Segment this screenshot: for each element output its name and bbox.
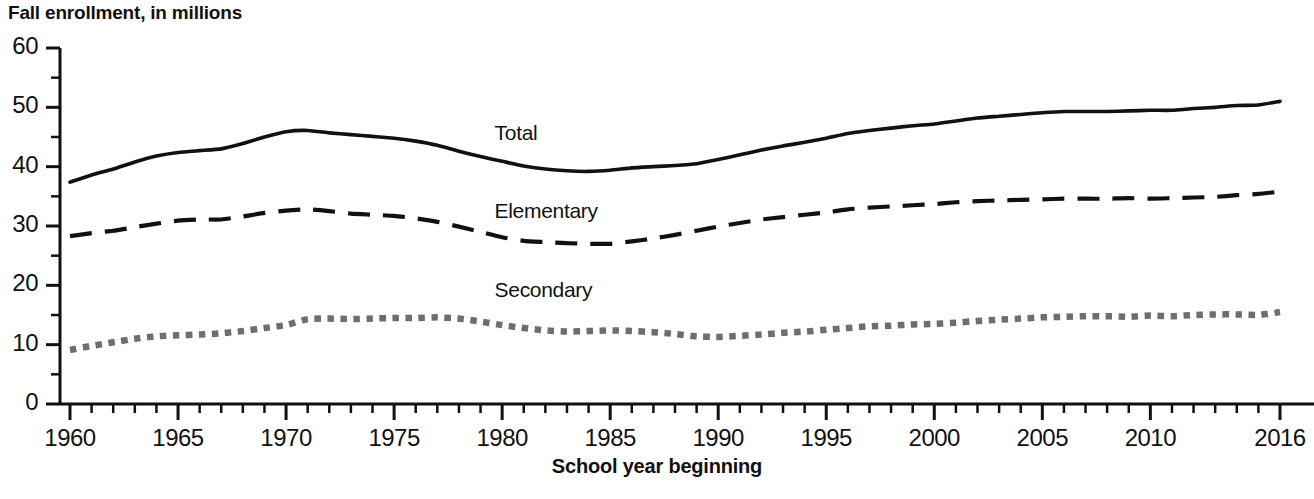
series-label-elementary: Elementary (495, 199, 598, 223)
x-tick-label: 2010 (1105, 424, 1195, 452)
series-label-secondary: Secondary (495, 278, 593, 302)
x-tick-label: 1990 (673, 424, 763, 452)
y-tick-label: 50 (0, 91, 38, 119)
y-tick-label: 10 (0, 329, 38, 357)
y-tick-label: 20 (0, 269, 38, 297)
x-tick-label: 1995 (781, 424, 871, 452)
enrollment-line-chart: Fall enrollment, in millions 60504030201… (0, 0, 1314, 499)
y-tick-label: 30 (0, 210, 38, 238)
y-tick-label: 60 (0, 32, 38, 60)
y-tick-label: 0 (0, 388, 38, 416)
x-tick-label: 2005 (997, 424, 1087, 452)
x-tick-label: 1975 (349, 424, 439, 452)
series-line-total (70, 101, 1280, 182)
x-tick-label: 1985 (565, 424, 655, 452)
series-lines (70, 101, 1280, 350)
x-tick-label: 1970 (241, 424, 331, 452)
x-axis-title: School year beginning (0, 455, 1314, 478)
x-tick-label: 1980 (457, 424, 547, 452)
x-tick-label: 1960 (25, 424, 115, 452)
x-tick-label: 2000 (889, 424, 979, 452)
x-tick-label: 1965 (133, 424, 223, 452)
y-tick-label: 40 (0, 151, 38, 179)
series-line-secondary (70, 312, 1280, 350)
series-label-total: Total (495, 121, 538, 145)
x-tick-label: 2016 (1235, 424, 1314, 452)
series-line-elementary (70, 192, 1280, 244)
